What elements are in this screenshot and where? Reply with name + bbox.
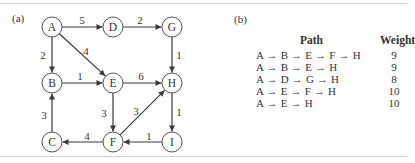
edge-weight-label: 1 bbox=[176, 106, 182, 118]
svg-text:D: D bbox=[109, 21, 117, 33]
path-cell: A → B → E → F → H bbox=[256, 49, 361, 61]
svg-text:A: A bbox=[48, 21, 57, 33]
edge-weight-label: 2 bbox=[137, 14, 143, 26]
edge-weight-label: 1 bbox=[77, 70, 83, 82]
edge-weight-label: 3 bbox=[133, 105, 139, 117]
path-header: Path bbox=[300, 34, 323, 46]
edge-weight-label: 6 bbox=[138, 70, 144, 82]
svg-text:F: F bbox=[110, 136, 116, 148]
weight-cell: 10 bbox=[382, 97, 406, 109]
edge-weight-label: 5 bbox=[79, 14, 85, 26]
edge-f-h bbox=[120, 90, 165, 135]
node-d: D bbox=[103, 17, 123, 37]
edge-weight-label: 2 bbox=[40, 49, 46, 61]
path-cell: A → D → G → H bbox=[256, 73, 339, 85]
svg-text:C: C bbox=[48, 136, 56, 148]
panel-b-label: (b) bbox=[234, 13, 247, 25]
weight-cell: 8 bbox=[382, 73, 406, 85]
edge-weight-label: 1 bbox=[146, 130, 152, 142]
weight-cell: 9 bbox=[382, 49, 406, 61]
edge-weight-label: 4 bbox=[84, 130, 90, 142]
node-h: H bbox=[162, 73, 182, 93]
svg-text:I: I bbox=[170, 136, 174, 148]
node-a: A bbox=[42, 17, 62, 37]
node-c: C bbox=[42, 132, 62, 152]
node-i: I bbox=[162, 132, 182, 152]
node-e: E bbox=[103, 73, 123, 93]
svg-text:H: H bbox=[168, 77, 176, 89]
path-cell: A → B → E → H bbox=[256, 61, 337, 73]
svg-text:G: G bbox=[168, 21, 176, 33]
edge-weight-label: 3 bbox=[101, 107, 107, 119]
node-f: F bbox=[103, 132, 123, 152]
path-cell: A → E → F → H bbox=[256, 85, 336, 97]
weight-cell: 10 bbox=[382, 85, 406, 97]
node-g: G bbox=[162, 17, 182, 37]
edge-weight-label: 4 bbox=[83, 45, 89, 57]
weight-header: Weight bbox=[380, 34, 415, 46]
edge-weight-label: 3 bbox=[41, 109, 47, 121]
path-cell: A → E → H bbox=[256, 97, 313, 109]
directed-graph: 5224116331341ADGBEHCFI bbox=[0, 0, 230, 163]
node-b: B bbox=[42, 73, 62, 93]
svg-text:E: E bbox=[109, 77, 116, 89]
svg-text:B: B bbox=[48, 77, 56, 89]
edge-weight-label: 1 bbox=[176, 49, 182, 61]
weight-cell: 9 bbox=[382, 61, 406, 73]
